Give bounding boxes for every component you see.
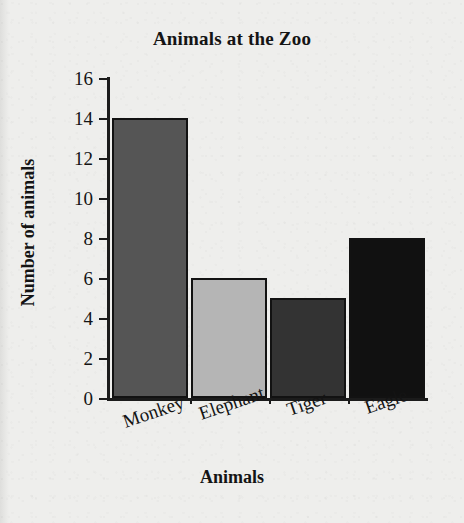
- y-axis-tick-label: 12: [74, 148, 93, 170]
- bar: [349, 238, 425, 398]
- y-axis-title: Number of animals: [18, 123, 39, 343]
- plot-area: 1614121086420: [110, 78, 428, 398]
- bar: [112, 118, 188, 398]
- y-axis-tick: 4: [99, 318, 110, 320]
- y-axis-tick: 14: [99, 118, 110, 120]
- y-axis-tick-label: 6: [84, 268, 94, 290]
- bar: [270, 298, 346, 398]
- y-axis-tick-label: 10: [74, 188, 93, 210]
- y-axis-tick: 8: [99, 238, 110, 240]
- scan-edge: [0, 0, 9, 523]
- x-axis-title: Animals: [0, 467, 464, 488]
- y-axis-tick: 0: [99, 398, 110, 400]
- x-axis-tick: [190, 398, 192, 404]
- chart-page: Animals at the Zoo 1614121086420 MonkeyE…: [0, 0, 464, 523]
- y-axis-tick: 12: [99, 158, 110, 160]
- bar: [191, 278, 267, 398]
- y-axis-tick: 10: [99, 198, 110, 200]
- y-axis-tick-label: 14: [74, 108, 93, 130]
- x-axis-tick: [269, 398, 271, 404]
- chart-title: Animals at the Zoo: [0, 28, 464, 50]
- y-axis-tick: 2: [99, 358, 110, 360]
- y-axis-tick: 6: [99, 278, 110, 280]
- y-axis-tick-label: 0: [84, 388, 94, 410]
- y-axis-tick-label: 2: [84, 348, 94, 370]
- y-axis-tick-label: 16: [74, 68, 93, 90]
- x-axis-tick: [348, 398, 350, 404]
- y-axis-tick: 16: [99, 78, 110, 80]
- y-axis-tick-label: 4: [84, 308, 94, 330]
- y-axis-tick-label: 8: [84, 228, 94, 250]
- bar-series: [112, 78, 428, 398]
